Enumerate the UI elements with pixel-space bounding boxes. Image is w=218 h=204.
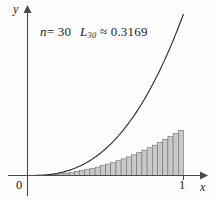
L-subscript: 30: [88, 30, 97, 40]
y-axis-label: y: [13, 2, 18, 17]
riemann-rectangle: [137, 153, 142, 176]
x-axis-label: x: [200, 180, 205, 195]
riemann-rectangle: [121, 159, 126, 176]
x-axis-arrow-icon: [200, 172, 208, 180]
riemann-rectangle: [100, 166, 105, 176]
riemann-sum-figure: n= 30L30 ≈ 0.3169 y x 0 1: [0, 0, 218, 204]
n-value: = 30: [47, 24, 71, 39]
riemann-rectangle: [111, 163, 116, 176]
riemann-rectangle: [126, 157, 131, 176]
riemann-rectangle: [132, 155, 137, 176]
x-tick-label-one: 1: [179, 178, 185, 193]
n-symbol: n: [40, 24, 47, 39]
riemann-rectangle: [106, 164, 111, 175]
riemann-rectangle: [85, 170, 90, 176]
origin-label: 0: [16, 178, 22, 193]
riemann-rectangle: [163, 140, 168, 176]
riemann-rectangle: [90, 168, 95, 175]
riemann-rectangle: [173, 134, 178, 176]
riemann-rectangle: [168, 137, 173, 176]
L-value: ≈ 0.3169: [100, 24, 148, 39]
riemann-rectangle: [147, 148, 152, 176]
y-axis-arrow-icon: [24, 5, 32, 13]
riemann-rectangle: [79, 171, 84, 176]
riemann-rectangle: [74, 172, 79, 176]
riemann-rectangle: [95, 167, 100, 175]
riemann-rectangles: [43, 130, 183, 175]
riemann-rectangle: [152, 145, 157, 175]
riemann-rectangle: [116, 161, 121, 176]
L-symbol: L: [80, 24, 87, 39]
riemann-rectangle: [157, 142, 162, 175]
annotation-label: n= 30L30 ≈ 0.3169: [40, 24, 148, 40]
riemann-rectangle: [142, 150, 147, 175]
riemann-rectangle: [178, 130, 183, 175]
